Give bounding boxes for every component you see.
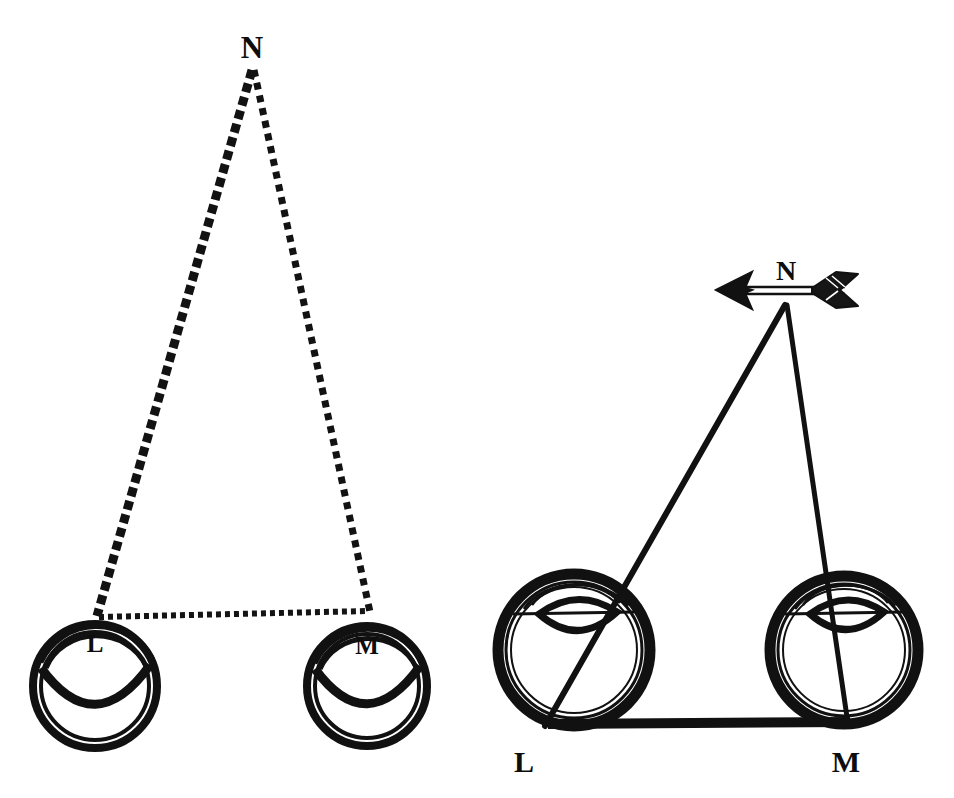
- eye-label-l-left-panel: L: [87, 630, 104, 657]
- eye-label-m-left-panel: M: [355, 632, 379, 659]
- apex-label-n-right: N: [776, 255, 796, 286]
- figure-root: N L M: [0, 0, 954, 798]
- diagram-canvas: N L M: [0, 0, 954, 798]
- eye-label-m-right-panel: M: [832, 745, 860, 778]
- apex-label-n-left: N: [241, 30, 263, 65]
- eye-label-l-right-panel: L: [514, 745, 534, 778]
